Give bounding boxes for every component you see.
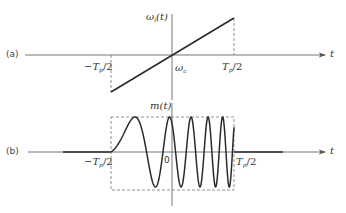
chirp-diagram xyxy=(0,0,346,213)
a-left-tick-label: −Tp/2 xyxy=(84,62,113,73)
panel-a-tag: (a) xyxy=(6,50,19,59)
panel-a xyxy=(25,14,325,100)
a-origin-label: ωc xyxy=(175,63,187,74)
a-x-axis-label: t xyxy=(330,49,334,59)
a-y-axis-label: ωi(t) xyxy=(146,12,168,23)
b-left-tick-label: −Tp/2 xyxy=(84,157,113,168)
a-right-tick-label: Tp/2 xyxy=(222,62,242,73)
b-x-axis-label: t xyxy=(330,146,334,156)
b-y-axis-label: m(t) xyxy=(150,101,171,111)
panel-b-tag: (b) xyxy=(6,147,19,156)
b-origin-label: 0 xyxy=(164,156,170,165)
panel-b xyxy=(28,103,325,206)
b-right-tick-label: Tp/2 xyxy=(236,157,256,168)
